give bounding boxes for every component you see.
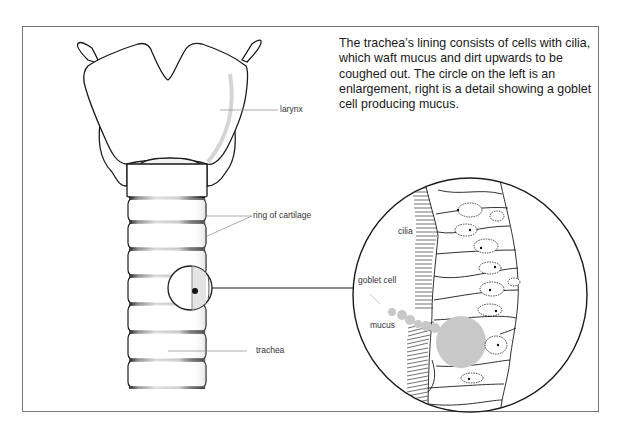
cell-detail-circle <box>353 176 587 420</box>
label-trachea: trachea <box>256 345 284 355</box>
label-larynx: larynx <box>280 104 303 114</box>
label-mucus: mucus <box>370 320 395 330</box>
label-cilia: cilia <box>398 226 413 236</box>
larynx-drawing <box>78 40 262 199</box>
label-ring-of-cartilage: ring of cartilage <box>253 210 311 220</box>
enlargement-circle <box>168 266 353 310</box>
caption-text: The trachea’s lining consists of cells w… <box>339 36 601 112</box>
label-goblet-cell: goblet cell <box>358 275 396 285</box>
